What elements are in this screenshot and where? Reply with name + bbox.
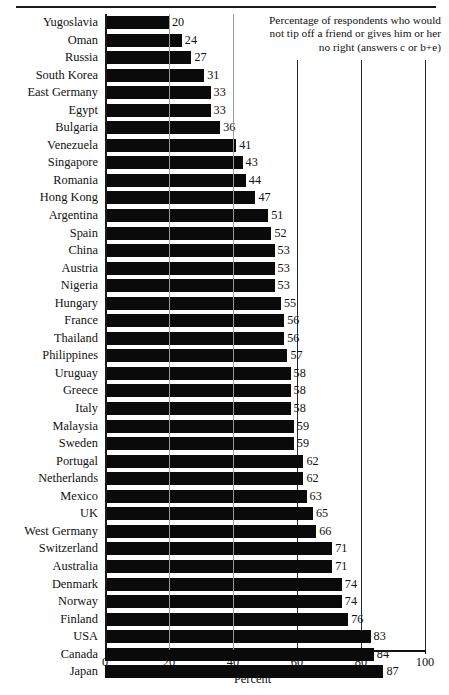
category-label: Netherlands — [0, 471, 98, 485]
bar-row: Singapore43 — [0, 154, 449, 172]
category-label: Mexico — [0, 489, 98, 503]
bar-container: 51 — [105, 209, 268, 222]
bar — [105, 121, 220, 134]
category-label: Thailand — [0, 331, 98, 345]
category-label: Austria — [0, 261, 98, 275]
bar-container: 65 — [105, 507, 313, 520]
bar-row: Netherlands62 — [0, 470, 449, 488]
plot-area: Yugoslavia20Oman24Russia27South Korea31E… — [0, 0, 449, 695]
bar-row: China53 — [0, 242, 449, 260]
bar-row: Sweden59 — [0, 435, 449, 453]
bar-container: 56 — [105, 332, 284, 345]
category-label: Bulgaria — [0, 120, 98, 134]
bar — [105, 507, 313, 520]
bar-container: 33 — [105, 86, 211, 99]
category-label: Singapore — [0, 155, 98, 169]
bar — [105, 69, 204, 82]
bar-row: East Germany33 — [0, 84, 449, 102]
bar — [105, 104, 211, 117]
bar-container: 62 — [105, 455, 303, 468]
bar-row: Switzerland71 — [0, 540, 449, 558]
bar — [105, 648, 374, 661]
category-label: Denmark — [0, 577, 98, 591]
bar-value-label: 58 — [294, 367, 306, 381]
gridline-40 — [233, 14, 234, 650]
bar — [105, 349, 287, 362]
category-label: Sweden — [0, 436, 98, 450]
bar — [105, 420, 294, 433]
category-label: Hungary — [0, 296, 98, 310]
category-label: Nigeria — [0, 278, 98, 292]
bar — [105, 262, 275, 275]
bar-container: 62 — [105, 472, 303, 485]
bar — [105, 437, 294, 450]
bar — [105, 332, 284, 345]
bar-value-label: 58 — [294, 402, 306, 416]
bar-row: Bulgaria36 — [0, 119, 449, 137]
bar-container: 43 — [105, 156, 243, 169]
bar-value-label: 53 — [278, 279, 290, 293]
category-label: Egypt — [0, 103, 98, 117]
category-label: East Germany — [0, 85, 98, 99]
bar-row: Argentina51 — [0, 207, 449, 225]
bar-container: 71 — [105, 542, 332, 555]
bar-container: 76 — [105, 613, 348, 626]
category-label: Romania — [0, 173, 98, 187]
bar-container: 41 — [105, 139, 236, 152]
bar-container: 58 — [105, 384, 291, 397]
y-axis-line — [105, 14, 107, 650]
bar — [105, 367, 291, 380]
bar-row: Mexico63 — [0, 488, 449, 506]
bar-row: Russia27 — [0, 49, 449, 67]
bar-row: Greece58 — [0, 382, 449, 400]
bar-container: 20 — [105, 16, 169, 29]
bar-row: Oman24 — [0, 32, 449, 50]
bar-row: Spain52 — [0, 225, 449, 243]
bar-value-label: 66 — [319, 525, 331, 539]
bar-row: Romania44 — [0, 172, 449, 190]
category-label: Finland — [0, 612, 98, 626]
bar-value-label: 74 — [345, 595, 357, 609]
category-label: Italy — [0, 401, 98, 415]
bar — [105, 227, 271, 240]
bar-value-label: 24 — [185, 34, 197, 48]
bar-row: Japan87 — [0, 663, 449, 681]
category-label: South Korea — [0, 68, 98, 82]
bar — [105, 402, 291, 415]
bar-row: Australia71 — [0, 558, 449, 576]
chart-figure: Percentage of respondents who would not … — [0, 0, 449, 695]
bar-container: 66 — [105, 525, 316, 538]
bar — [105, 244, 275, 257]
bar-value-label: 44 — [249, 174, 261, 188]
bar-rows: Yugoslavia20Oman24Russia27South Korea31E… — [0, 14, 449, 681]
bar-container: 71 — [105, 560, 332, 573]
bar-container: 33 — [105, 104, 211, 117]
bar-container: 59 — [105, 420, 294, 433]
bar-value-label: 33 — [214, 104, 226, 118]
bar-row: Hong Kong47 — [0, 189, 449, 207]
bar — [105, 314, 284, 327]
bar-row: Denmark74 — [0, 576, 449, 594]
category-label: USA — [0, 629, 98, 643]
bar-row: France56 — [0, 312, 449, 330]
category-label: UK — [0, 506, 98, 520]
category-label: Uruguay — [0, 366, 98, 380]
bar-container: 74 — [105, 595, 342, 608]
bar-value-label: 76 — [351, 613, 363, 627]
category-label: Spain — [0, 226, 98, 240]
bar-value-label: 63 — [310, 490, 322, 504]
bar-value-label: 56 — [287, 314, 299, 328]
bar — [105, 472, 303, 485]
category-label: West Germany — [0, 524, 98, 538]
bar-value-label: 74 — [345, 578, 357, 592]
category-label: Philippines — [0, 348, 98, 362]
bar — [105, 578, 342, 591]
bar-value-label: 41 — [239, 139, 251, 153]
bar-row: Venezuela41 — [0, 137, 449, 155]
bar-container: 55 — [105, 297, 281, 310]
category-label: Greece — [0, 383, 98, 397]
category-label: Oman — [0, 33, 98, 47]
bar-value-label: 71 — [335, 560, 347, 574]
bar-value-label: 62 — [306, 455, 318, 469]
bar-value-label: 59 — [297, 420, 309, 434]
